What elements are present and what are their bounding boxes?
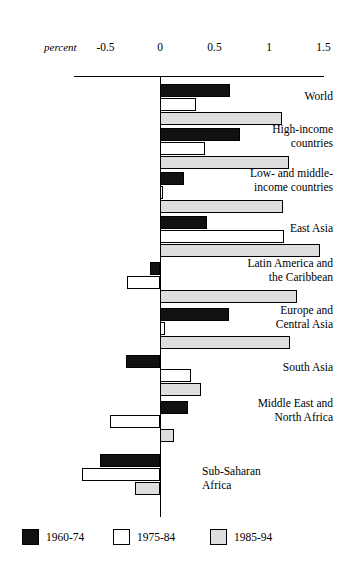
legend-item-1975-84[interactable]: 1975-84 [113,529,175,545]
bar-1975-84-low--and-middle--income-countries [160,186,163,199]
x-tick-0: 0 [157,41,163,53]
legend-item-1985-94[interactable]: 1985-94 [210,529,272,545]
chart-legend: 1960-741975-841985-94 [0,529,341,559]
bar-1960-74-south-asia [126,355,160,368]
bar-1985-94-low--and-middle--income-countries [160,200,283,213]
black-filled-square-icon [22,529,39,545]
category-label: Sub-Saharan Africa [196,465,336,492]
gray-filled-square-icon [210,529,227,545]
legend-label: 1960-74 [46,531,84,543]
bar-1975-84-europe-and-central-asia [160,322,165,335]
legend-item-1960-74[interactable]: 1960-74 [22,529,84,545]
axis-unit-label: percent [44,41,77,53]
bar-1960-74-latin-america-and-the-caribbean [150,262,160,275]
bar-1960-74-sub-saharan-africa [100,454,160,467]
legend-label: 1975-84 [137,531,175,543]
bar-1975-84-south-asia [160,369,191,382]
bar-1985-94-middle-east-and-north-africa [160,429,174,442]
category-label: South Asia [189,361,341,375]
bar-chart: percent -0.500.511.5 WorldHigh-income co… [0,0,341,580]
x-tick-neg0p5: -0.5 [96,41,114,53]
x-tick-1: 1 [266,41,272,53]
plot-area: WorldHigh-income countriesLow- and middl… [0,76,341,517]
x-tick-0p5: 0.5 [207,41,221,53]
category-label: Low- and middle- income countries [189,167,341,194]
category-label: Europe and Central Asia [189,304,341,331]
category-label: World [189,90,341,104]
bar-1985-94-south-asia [160,383,201,396]
category-label: East Asia [189,222,341,236]
bar-1975-84-latin-america-and-the-caribbean [127,276,160,289]
category-label: Latin America and the Caribbean [189,257,341,284]
bar-1975-84-middle-east-and-north-africa [110,415,160,428]
legend-label: 1985-94 [234,531,272,543]
white-outlined-square-icon [113,529,130,545]
category-label: Middle East and North Africa [189,397,341,424]
bar-1960-74-middle-east-and-north-africa [160,401,188,414]
bar-1985-94-latin-america-and-the-caribbean [160,290,297,303]
bar-1985-94-east-asia [160,244,320,257]
bar-1985-94-europe-and-central-asia [160,336,290,349]
bar-1960-74-low--and-middle--income-countries [160,172,184,185]
category-label: High-income countries [189,123,341,150]
bar-1975-84-sub-saharan-africa [82,468,160,481]
x-tick-1p5: 1.5 [316,41,330,53]
bar-1985-94-sub-saharan-africa [135,482,160,495]
